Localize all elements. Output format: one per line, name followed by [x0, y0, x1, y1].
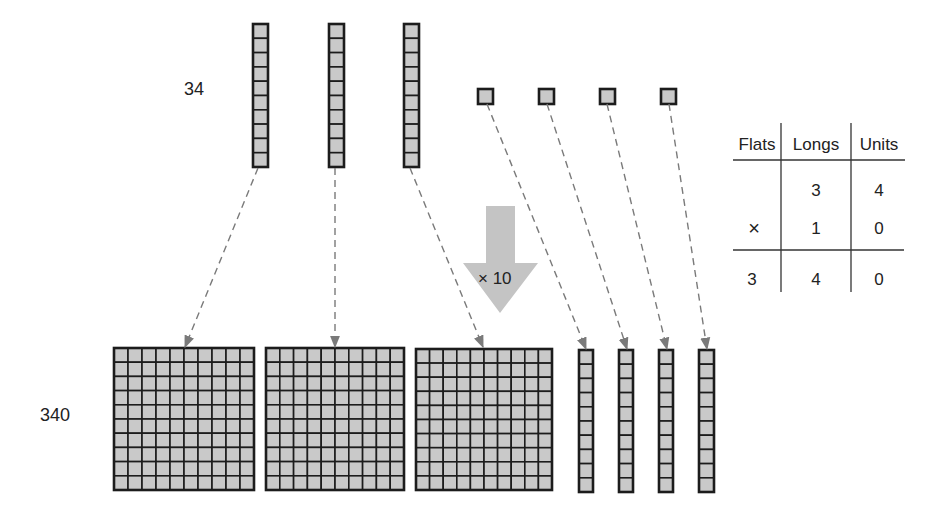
multiplier-label: × 10: [478, 269, 512, 288]
table-header-units: Units: [860, 135, 899, 154]
table-cell: 3: [747, 270, 756, 289]
flat-block: [114, 348, 254, 490]
dashed-arrow-icon: [185, 168, 258, 347]
unit-block: [600, 89, 615, 104]
dashed-arrow-icon: [547, 104, 627, 349]
long-block: [579, 350, 593, 492]
flat-block: [266, 348, 404, 490]
long-block: [659, 350, 673, 492]
table-cell: 0: [874, 219, 883, 238]
table-cell: 4: [874, 181, 883, 200]
long-block: [329, 24, 344, 167]
long-block: [699, 350, 714, 492]
base-ten-diagram: 34 340 × 10 Flats Longs Units 3 4 × 1 0 …: [0, 0, 933, 520]
table-cell: 0: [874, 270, 883, 289]
dashed-arrow-icon: [410, 168, 483, 347]
top-longs-group: [253, 24, 419, 167]
table-header-longs: Longs: [793, 135, 839, 154]
dashed-arrow-icon: [669, 104, 707, 349]
multiply-sign: ×: [748, 217, 760, 239]
table-header-flats: Flats: [739, 135, 776, 154]
unit-block: [478, 89, 493, 104]
table-cell: 4: [811, 270, 820, 289]
dashed-arrow-icon: [607, 104, 667, 349]
top-units-group: [478, 89, 676, 104]
flat-block: [416, 349, 552, 490]
times-ten-arrow-icon: × 10: [463, 206, 538, 313]
bottom-number-label: 340: [40, 405, 70, 425]
bottom-longs-group: [579, 350, 714, 492]
unit-block: [539, 89, 554, 104]
long-block: [404, 24, 419, 167]
table-cell: 3: [811, 181, 820, 200]
unit-block: [661, 89, 676, 104]
bottom-flats-group: [114, 348, 552, 490]
long-block: [619, 350, 633, 492]
place-value-table: Flats Longs Units 3 4 × 1 0 3 4 0: [733, 123, 905, 292]
long-block: [253, 24, 268, 167]
table-cell: 1: [811, 219, 820, 238]
top-number-label: 34: [184, 79, 204, 99]
